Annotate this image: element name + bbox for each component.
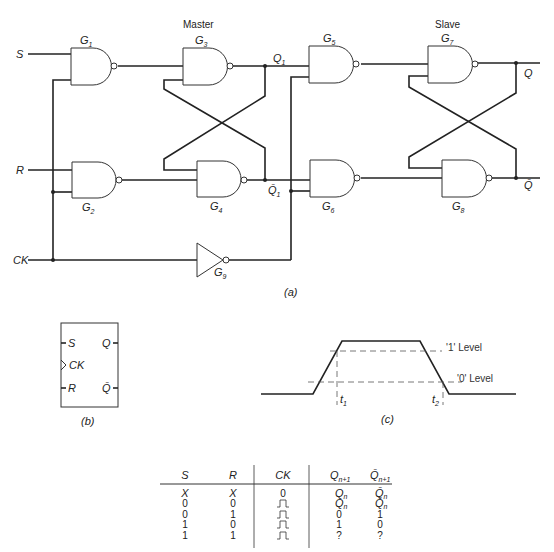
output-q-bar-label: Q̄ bbox=[524, 179, 533, 191]
clock-pulse-icon bbox=[277, 500, 289, 507]
block-pin-s: S bbox=[68, 337, 76, 349]
clock-triangle-icon bbox=[61, 360, 66, 370]
caption-a: (a) bbox=[284, 286, 298, 298]
table-cell: 1 bbox=[336, 519, 342, 530]
block-pin-r: R bbox=[68, 382, 76, 394]
level-1-label: '1' Level bbox=[446, 342, 482, 353]
input-s-label: S bbox=[16, 48, 24, 60]
caption-b: (b) bbox=[81, 415, 95, 427]
gate-g8 bbox=[442, 160, 492, 197]
output-q-label: Q bbox=[524, 67, 533, 79]
block-pin-q-bar: Q̄ bbox=[102, 382, 111, 394]
gate-label-g1: G1 bbox=[80, 34, 93, 48]
block-pin-q: Q bbox=[102, 337, 111, 349]
th-r: R bbox=[229, 469, 237, 481]
gate-label-g9: G9 bbox=[214, 266, 227, 280]
table-cell: ? bbox=[377, 530, 383, 541]
node-q1-bar-label: Q̄1 bbox=[268, 184, 281, 198]
block-pin-ck: CK bbox=[69, 359, 85, 371]
table-cell: 0 bbox=[377, 519, 383, 530]
th-q-next: Qn+1 bbox=[330, 469, 351, 483]
table-cell: 0 bbox=[230, 498, 236, 509]
table-cell: 1 bbox=[182, 519, 188, 530]
table-cell: 0 bbox=[280, 488, 286, 499]
gate-label-g3: G3 bbox=[195, 34, 208, 48]
gate-label-g5: G5 bbox=[323, 32, 336, 46]
t1-label: t1 bbox=[340, 393, 347, 407]
slave-label: Slave bbox=[435, 19, 460, 30]
flip-flop-figure: Master Slave S R CK G1 G3 G2 G4 G5 G6 G7… bbox=[0, 0, 554, 552]
clock-pulse-icon bbox=[277, 532, 289, 539]
gate-g5 bbox=[309, 46, 359, 83]
gate-label-g2: G2 bbox=[82, 201, 95, 215]
table-cell: 0 bbox=[182, 498, 188, 509]
gate-g7 bbox=[428, 46, 478, 83]
th-ck: CK bbox=[275, 469, 291, 481]
table-cell: ? bbox=[336, 530, 342, 541]
input-r-label: R bbox=[16, 164, 24, 176]
gate-g6 bbox=[310, 160, 360, 197]
gate-g4 bbox=[197, 161, 247, 197]
gate-label-g4: G4 bbox=[210, 200, 223, 214]
input-ck-label: CK bbox=[13, 254, 29, 266]
gate-g9-inverter bbox=[197, 243, 229, 277]
th-s: S bbox=[181, 469, 189, 481]
table-cell: 1 bbox=[182, 530, 188, 541]
clock-pulse-icon bbox=[277, 521, 289, 528]
level-0-label: '0' Level bbox=[457, 373, 493, 384]
caption-c: (c) bbox=[381, 413, 394, 425]
table-cell: 1 bbox=[230, 530, 236, 541]
gate-g1 bbox=[71, 48, 117, 85]
wiring bbox=[28, 54, 540, 262]
th-q-bar-next: Q̄n+1 bbox=[370, 469, 391, 483]
master-label: Master bbox=[183, 19, 214, 30]
t2-label: t2 bbox=[432, 393, 439, 407]
gate-label-g7: G7 bbox=[441, 32, 455, 46]
clock-pulse-icon bbox=[277, 511, 289, 518]
table-rows: X X 0 Qn Q̄n 0 0 Qn Q̄n 0 1 0 1 1 0 1 0 … bbox=[180, 487, 387, 541]
gate-label-g8: G8 bbox=[452, 200, 465, 214]
node-q1-label: Q1 bbox=[273, 52, 286, 66]
gate-g3 bbox=[183, 48, 233, 85]
gate-label-g6: G6 bbox=[322, 200, 335, 214]
table-cell: 0 bbox=[230, 519, 236, 530]
gate-g2 bbox=[72, 162, 122, 198]
